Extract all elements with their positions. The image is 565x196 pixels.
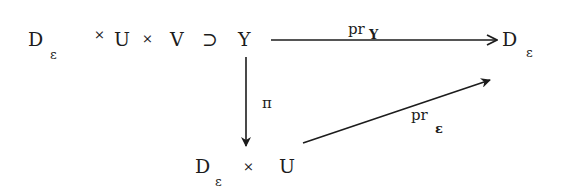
arrow-prE bbox=[303, 80, 490, 143]
top-v: V bbox=[170, 30, 184, 49]
label-prE-sub: ε bbox=[435, 122, 443, 135]
target-d-subscript: ε bbox=[526, 46, 533, 59]
top-y: Y bbox=[238, 30, 251, 49]
top-times-2: × bbox=[142, 32, 153, 45]
top-d-subscript: ε bbox=[50, 48, 57, 61]
bottom-times: × bbox=[243, 160, 254, 173]
target-d: D bbox=[502, 30, 517, 49]
bottom-d-subscript: ε bbox=[215, 175, 222, 188]
top-times-1: × bbox=[94, 28, 105, 41]
top-supset: ⊃ bbox=[202, 30, 218, 49]
top-d: D bbox=[28, 30, 43, 49]
label-prY-main: pr bbox=[348, 22, 365, 37]
bottom-d: D bbox=[195, 157, 210, 176]
top-u: U bbox=[114, 30, 130, 49]
label-pi: π bbox=[262, 96, 272, 111]
bottom-u: U bbox=[279, 157, 295, 176]
commutative-diagram: D ε × U × V ⊃ Y pr Y D ε π pr ε D ε × U bbox=[0, 0, 565, 196]
label-prY-sub: Y bbox=[369, 28, 378, 41]
label-prE-main: pr bbox=[411, 108, 428, 123]
